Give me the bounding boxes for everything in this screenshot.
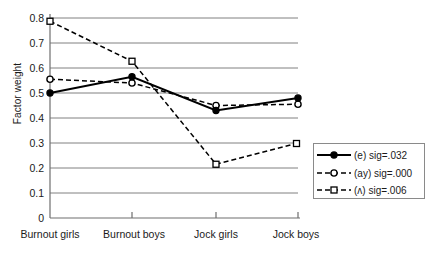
legend-marker-open-square-icon (314, 183, 354, 197)
legend-marker-filled-circle-icon (314, 148, 354, 162)
legend-label-turned-v: (ʌ) sig=.006 (354, 185, 407, 196)
x-tick-label-burnout-boys: Burnout boys (103, 228, 165, 240)
chart-legend: (e) sig=.032 (ay) sig=.000 (ʌ) sig=.006 (313, 143, 425, 199)
legend-label-ay: (ay) sig=.000 (354, 168, 412, 179)
plot-canvas (0, 0, 430, 255)
x-tick-label-burnout-girls: Burnout girls (21, 228, 80, 240)
legend-item-ay: (ay) sig=.000 (314, 164, 426, 182)
legend-marker-open-circle-icon (314, 166, 354, 180)
legend-item-e: (e) sig=.032 (314, 146, 426, 164)
gridlines (50, 18, 298, 193)
legend-item-turned-v: (ʌ) sig=.006 (314, 181, 426, 199)
x-tick-label-jock-girls: Jock girls (194, 228, 238, 240)
axis-lines (50, 14, 300, 218)
x-tick-label-jock-boys: Jock boys (273, 228, 320, 240)
factor-weight-line-chart: Factor weight 0.8 0.7 0.6 0.5 0.4 0.3 0.… (0, 0, 430, 255)
series-e-filled-circle (47, 74, 301, 114)
legend-label-e: (e) sig=.032 (354, 150, 407, 161)
